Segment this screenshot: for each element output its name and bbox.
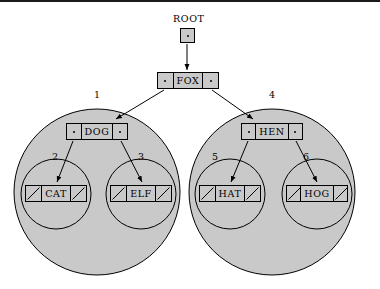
null-slash-icon bbox=[287, 186, 303, 201]
node-hat-left-pointer-cell bbox=[200, 186, 216, 201]
subtree-4-label: 4 bbox=[269, 90, 275, 100]
pointer-dot-icon bbox=[248, 131, 250, 133]
null-slash-icon bbox=[334, 186, 350, 201]
node-cat-key: CAT bbox=[42, 186, 70, 201]
fox-right-to-hen-arrow bbox=[212, 90, 253, 119]
null-slash-icon bbox=[245, 186, 261, 201]
node-elf-key: ELF bbox=[127, 186, 155, 201]
node-elf-right-pointer-cell bbox=[155, 186, 171, 201]
node-elf-left-pointer-cell bbox=[111, 186, 127, 201]
root-pointer-label: ROOT bbox=[173, 14, 204, 24]
node-dog-right-pointer-cell bbox=[112, 124, 127, 139]
node-hat: HAT bbox=[199, 185, 261, 202]
node-fox-right-pointer-cell bbox=[202, 73, 218, 88]
subtree-2-label: 2 bbox=[52, 152, 58, 162]
node-hog-left-pointer-cell bbox=[287, 186, 301, 201]
node-dog-left-pointer-cell bbox=[67, 124, 82, 139]
node-hat-key: HAT bbox=[216, 186, 245, 201]
pointer-dot-icon bbox=[210, 80, 212, 82]
pointer-dot-icon bbox=[164, 80, 166, 82]
pointer-dot-icon bbox=[187, 35, 189, 37]
null-slash-icon bbox=[156, 186, 172, 201]
node-dog: DOG bbox=[66, 123, 128, 140]
subtree-3-label: 3 bbox=[138, 152, 144, 162]
root-pointer-box bbox=[180, 28, 195, 43]
pointer-dot-icon bbox=[119, 131, 121, 133]
node-cat-right-pointer-cell bbox=[70, 186, 86, 201]
node-fox-left-pointer-cell bbox=[158, 73, 174, 88]
null-slash-icon bbox=[26, 186, 42, 201]
bst-diagram: ROOT FOXDOGHENCATELFHATHOG 142356 bbox=[0, 0, 380, 289]
node-hen-left-pointer-cell bbox=[242, 124, 256, 139]
node-dog-key: DOG bbox=[82, 124, 113, 139]
node-hen-key: HEN bbox=[256, 124, 287, 139]
null-slash-icon bbox=[71, 186, 87, 201]
pointer-dot-icon bbox=[73, 131, 75, 133]
diagram-vector-layer bbox=[0, 2, 380, 289]
node-hen-right-pointer-cell bbox=[288, 124, 302, 139]
subtree-6-label: 6 bbox=[303, 152, 309, 162]
null-slash-icon bbox=[111, 186, 127, 201]
node-hog: HOG bbox=[286, 185, 348, 202]
node-hen: HEN bbox=[241, 123, 303, 140]
node-hog-right-pointer-cell bbox=[333, 186, 347, 201]
node-hat-right-pointer-cell bbox=[244, 186, 260, 201]
node-elf: ELF bbox=[110, 185, 172, 202]
pointer-dot-icon bbox=[294, 131, 296, 133]
node-hog-key: HOG bbox=[301, 186, 332, 201]
fox-left-to-dog-arrow bbox=[116, 90, 164, 119]
node-cat-left-pointer-cell bbox=[26, 186, 42, 201]
node-fox-key: FOX bbox=[174, 73, 203, 88]
subtree-5-label: 5 bbox=[212, 152, 218, 162]
subtree-1-label: 1 bbox=[94, 90, 100, 100]
node-cat: CAT bbox=[25, 185, 87, 202]
node-fox: FOX bbox=[157, 72, 219, 89]
null-slash-icon bbox=[200, 186, 216, 201]
